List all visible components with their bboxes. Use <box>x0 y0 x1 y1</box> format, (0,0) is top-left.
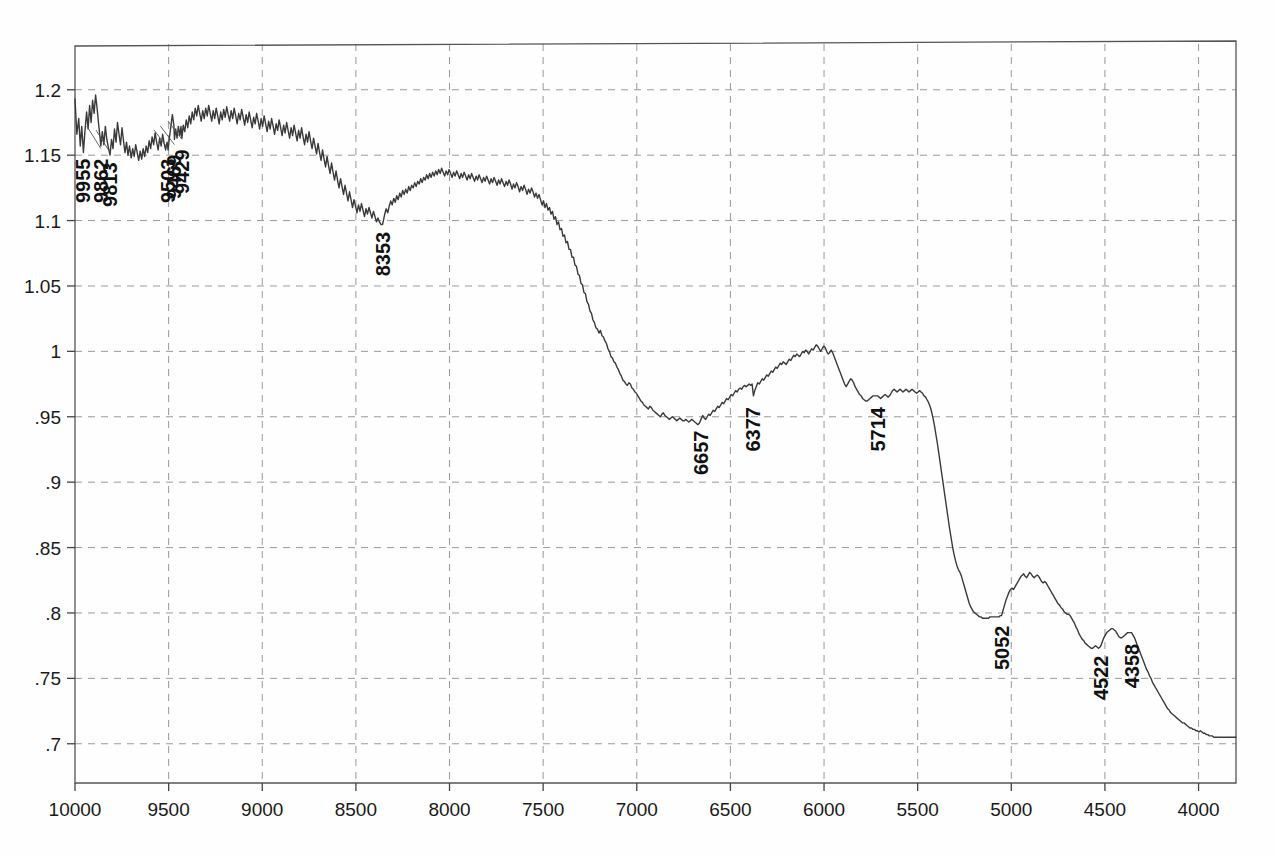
x-tick-label: 9500 <box>147 799 189 820</box>
peak-label: 5052 <box>991 626 1013 671</box>
y-tick-label: .95 <box>35 407 61 428</box>
x-tick-label: 7500 <box>522 799 564 820</box>
y-axis-tick-labels: 1.21.151.11.051.95.9.85.8.75.7 <box>24 80 61 755</box>
y-tick-label: 1.15 <box>24 145 61 166</box>
peak-label: 9813 <box>99 162 121 207</box>
spectrum-chart-page: 1.21.151.11.051.95.9.85.8.75.7 100009500… <box>0 0 1277 855</box>
y-tick-label: 1.05 <box>24 276 61 297</box>
y-tick-label: 1 <box>50 341 61 362</box>
y-tick-label: .75 <box>35 668 61 689</box>
spectrum-line <box>75 95 1236 737</box>
spectrum-plot: 1.21.151.11.051.95.9.85.8.75.7 100009500… <box>0 0 1277 855</box>
x-tick-label: 9000 <box>241 799 283 820</box>
x-tick-label: 4500 <box>1084 799 1126 820</box>
peak-label: 9429 <box>171 149 193 194</box>
x-axis-tick-labels: 1000095009000850080007500700065006000550… <box>49 799 1220 820</box>
peak-label: 4522 <box>1090 656 1112 701</box>
peak-label: 8353 <box>372 232 394 276</box>
axis-ticks <box>67 90 1199 791</box>
peak-label: 4358 <box>1121 644 1143 689</box>
peak-label: 6657 <box>690 431 712 476</box>
peak-label: 5714 <box>867 406 889 451</box>
x-tick-label: 5500 <box>897 799 939 820</box>
x-tick-label: 8500 <box>335 799 377 820</box>
y-tick-label: .9 <box>45 472 61 493</box>
x-tick-label: 7000 <box>616 799 658 820</box>
x-tick-label: 5000 <box>990 799 1032 820</box>
x-tick-label: 6500 <box>709 799 751 820</box>
grid-lines <box>75 44 1236 783</box>
x-tick-label: 10000 <box>49 799 102 820</box>
y-tick-label: 1.2 <box>35 80 61 101</box>
peak-label: 6377 <box>742 407 764 452</box>
y-tick-label: 1.1 <box>35 211 61 232</box>
x-tick-label: 6000 <box>803 799 845 820</box>
x-tick-label: 8000 <box>428 799 470 820</box>
x-tick-label: 4000 <box>1177 799 1219 820</box>
y-tick-label: .7 <box>45 734 61 755</box>
y-tick-label: .85 <box>35 538 61 559</box>
y-tick-label: .8 <box>45 603 61 624</box>
spectrum-curve <box>75 95 1236 737</box>
